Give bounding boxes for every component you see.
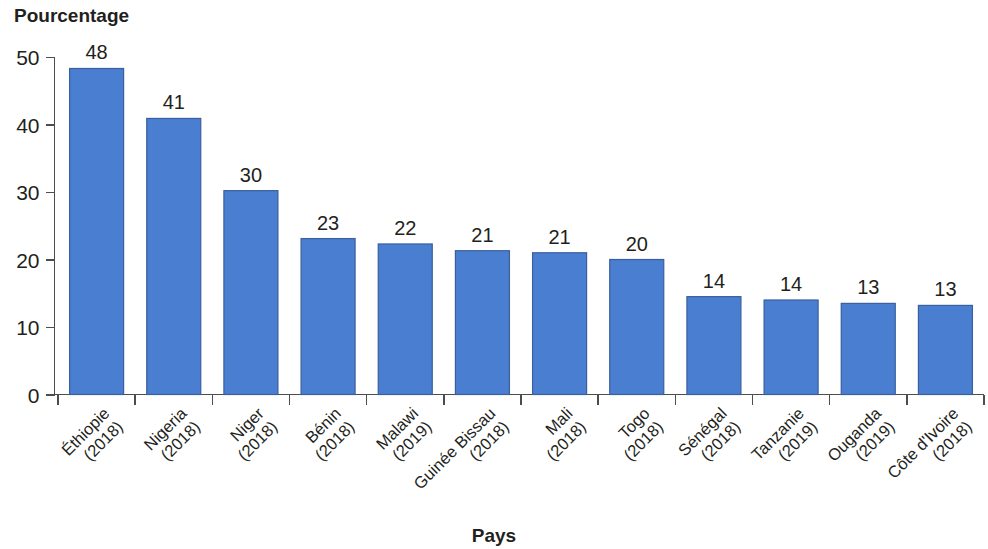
bar-value-label: 21 <box>548 226 570 248</box>
y-tick-label: 10 <box>16 316 39 339</box>
y-tick-label: 30 <box>16 181 39 204</box>
bar-value-label: 48 <box>85 41 107 63</box>
bar <box>147 118 201 394</box>
bar <box>764 300 818 395</box>
bar <box>610 260 664 395</box>
bar-value-label: 22 <box>394 217 416 239</box>
bar-value-label: 30 <box>240 164 262 186</box>
bar-value-label: 13 <box>934 278 956 300</box>
bar-value-label: 14 <box>780 273 802 295</box>
bar-value-label: 13 <box>857 276 879 298</box>
y-tick-label: 40 <box>16 114 39 137</box>
bar-value-label: 23 <box>317 212 339 234</box>
bar-value-label: 41 <box>163 91 185 113</box>
y-tick-label: 20 <box>16 249 39 272</box>
x-axis-title: Pays <box>472 525 516 546</box>
y-tick-label: 0 <box>28 384 40 407</box>
bar-value-label: 20 <box>626 233 648 255</box>
y-axis-title: Pourcentage <box>14 5 129 26</box>
bar <box>301 239 355 395</box>
bar <box>841 303 895 394</box>
bar <box>918 305 972 394</box>
bar-value-label: 21 <box>471 224 493 246</box>
bar-chart: Pourcentage 01020304050 4841302322212120… <box>0 0 988 549</box>
bar <box>533 253 587 395</box>
bar <box>224 191 278 395</box>
bar <box>378 244 432 395</box>
bar <box>70 68 124 394</box>
bar <box>687 297 741 395</box>
bar <box>455 251 509 395</box>
y-tick-label: 50 <box>16 46 39 69</box>
bar-value-label: 14 <box>703 270 725 292</box>
